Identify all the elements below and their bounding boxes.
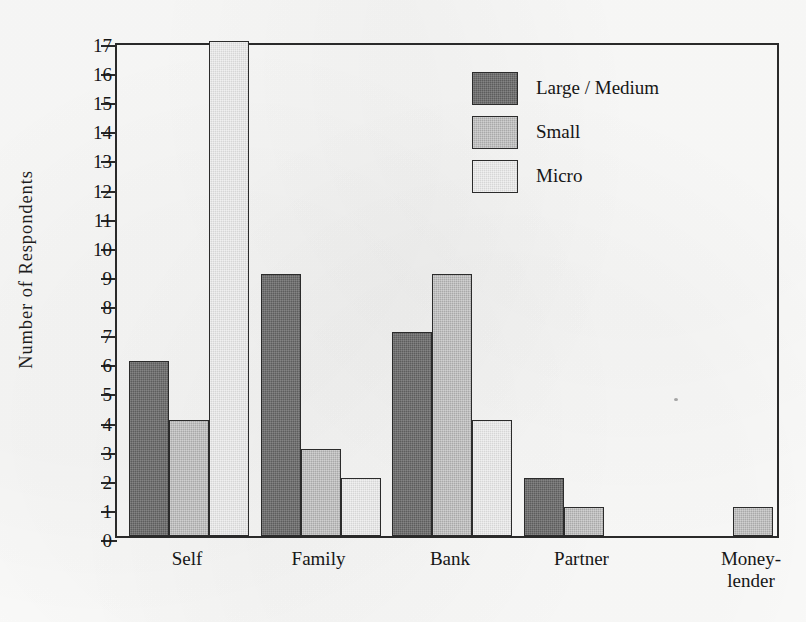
x-axis-category-labels: SelfFamilyBankPartnerMoney- lender	[115, 548, 779, 618]
y-axis-tick-label: 5	[54, 385, 112, 404]
y-axis-tick-label: 14	[54, 123, 112, 142]
x-axis-label-self: Self	[172, 548, 203, 570]
bar-chart-figure: Number of Respondents 012345678910111213…	[0, 0, 806, 622]
legend-item-micro: Micro	[472, 156, 702, 196]
dark-gray-swatch	[472, 72, 518, 105]
bar-partner-small	[564, 507, 604, 536]
y-axis-tick-label: 0	[54, 531, 112, 550]
legend-label: Small	[536, 121, 580, 143]
y-axis-tick-label: 2	[54, 472, 112, 491]
y-axis-tick-label: 4	[54, 414, 112, 433]
legend-label: Micro	[536, 165, 582, 187]
y-axis-tick-label: 15	[54, 94, 112, 113]
y-axis-title: Number of Respondents	[9, 0, 43, 538]
y-axis-tick-label: 10	[54, 239, 112, 258]
x-axis-label-family: Family	[292, 548, 346, 570]
scan-artifact-speck	[674, 398, 678, 401]
bar-family-micro	[341, 478, 381, 536]
legend-item-large-medium: Large / Medium	[472, 68, 702, 108]
bar-bank-large-medium	[392, 332, 432, 536]
bar-self-micro	[209, 41, 249, 536]
y-axis-tick-label: 9	[54, 268, 112, 287]
y-axis-tick-label: 8	[54, 298, 112, 317]
y-axis-tick-label: 1	[54, 501, 112, 520]
y-axis-tick-label: 16	[54, 65, 112, 84]
bar-family-large-medium	[261, 274, 301, 536]
bar-self-large-medium	[129, 361, 169, 536]
bar-family-small	[301, 449, 341, 536]
y-axis-tick-label: 7	[54, 327, 112, 346]
x-axis-label-partner: Partner	[554, 548, 609, 570]
y-axis-tick-label: 6	[54, 356, 112, 375]
y-axis-tick-label: 3	[54, 443, 112, 462]
bar-bank-micro	[472, 420, 512, 536]
bar-money-lender-small	[733, 507, 773, 536]
light-gray-swatch	[472, 160, 518, 193]
y-axis-tick-label: 12	[54, 181, 112, 200]
y-axis-tick-label: 17	[54, 36, 112, 55]
y-axis-tick-label: 13	[54, 152, 112, 171]
x-axis-label-bank: Bank	[430, 548, 470, 570]
legend: Large / MediumSmallMicro	[472, 68, 702, 200]
y-axis-tick-label: 11	[54, 210, 112, 229]
y-axis-title-text: Number of Respondents	[16, 170, 37, 369]
legend-label: Large / Medium	[536, 77, 659, 99]
bar-self-small	[169, 420, 209, 536]
medium-gray-swatch	[472, 116, 518, 149]
x-axis-label-money-lender: Money- lender	[721, 548, 781, 593]
legend-item-small: Small	[472, 112, 702, 152]
bar-partner-large-medium	[524, 478, 564, 536]
bar-bank-small	[432, 274, 472, 536]
